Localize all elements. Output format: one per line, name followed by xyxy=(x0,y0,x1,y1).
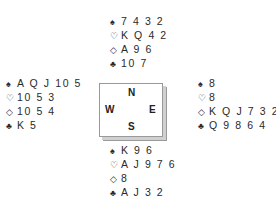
north-hearts: ♡K Q 4 2 xyxy=(110,28,168,42)
north-spades: ♠7 4 3 2 xyxy=(110,14,168,28)
heart-icon: ♡ xyxy=(198,91,209,105)
west-spades: ♠A Q J 10 5 xyxy=(6,76,82,90)
east-spades-cards: 8 xyxy=(209,77,216,89)
south-clubs-cards: A J 3 2 xyxy=(121,186,164,198)
west-hearts: ♡10 5 3 xyxy=(6,90,82,104)
diamond-icon: ◇ xyxy=(110,43,121,57)
east-clubs: ♣Q 9 8 6 4 xyxy=(198,118,276,132)
east-clubs-cards: Q 9 8 6 4 xyxy=(209,119,267,131)
spade-icon: ♠ xyxy=(110,15,121,29)
east-diamonds-cards: K Q J 7 3 2 xyxy=(209,105,276,117)
north-hand: ♠7 4 3 2 ♡K Q 4 2 ◇A 9 6 ♣10 7 xyxy=(110,14,168,70)
compass-east: E xyxy=(149,104,156,115)
south-diamonds-cards: 8 xyxy=(121,172,128,184)
south-hearts: ♡A J 9 7 6 xyxy=(110,157,176,171)
spade-icon: ♠ xyxy=(110,144,121,158)
club-icon: ♣ xyxy=(198,119,209,133)
club-icon: ♣ xyxy=(6,119,17,133)
heart-icon: ♡ xyxy=(6,91,17,105)
east-spades: ♠8 xyxy=(198,76,276,90)
diamond-icon: ◇ xyxy=(110,172,121,186)
east-diamonds: ◇K Q J 7 3 2 xyxy=(198,104,276,118)
north-diamonds: ◇A 9 6 xyxy=(110,42,168,56)
south-hearts-cards: A J 9 7 6 xyxy=(121,158,176,170)
south-spades: ♠K 9 6 xyxy=(110,143,176,157)
north-clubs: ♣10 7 xyxy=(110,56,168,70)
south-clubs: ♣A J 3 2 xyxy=(110,185,176,199)
south-diamonds: ◇8 xyxy=(110,171,176,185)
west-spades-cards: A Q J 10 5 xyxy=(17,77,82,89)
west-clubs: ♣K 5 xyxy=(6,118,82,132)
west-clubs-cards: K 5 xyxy=(17,119,38,131)
heart-icon: ♡ xyxy=(110,29,121,43)
spade-icon: ♠ xyxy=(6,77,17,91)
compass-north: N xyxy=(128,87,135,98)
heart-icon: ♡ xyxy=(110,158,121,172)
club-icon: ♣ xyxy=(110,186,121,200)
north-clubs-cards: 10 7 xyxy=(121,57,148,69)
club-icon: ♣ xyxy=(110,57,121,71)
spade-icon: ♠ xyxy=(198,77,209,91)
west-hand: ♠A Q J 10 5 ♡10 5 3 ◇10 5 4 ♣K 5 xyxy=(6,76,82,132)
south-hand: ♠K 9 6 ♡A J 9 7 6 ◇8 ♣A J 3 2 xyxy=(110,143,176,199)
south-spades-cards: K 9 6 xyxy=(121,144,154,156)
compass-west: W xyxy=(105,104,114,115)
east-hearts: ♡8 xyxy=(198,90,276,104)
diamond-icon: ◇ xyxy=(198,105,209,119)
north-diamonds-cards: A 9 6 xyxy=(121,43,153,55)
compass-south: S xyxy=(128,121,135,132)
compass-box: N W E S xyxy=(99,83,163,137)
east-hand: ♠8 ♡8 ◇K Q J 7 3 2 ♣Q 9 8 6 4 xyxy=(198,76,276,132)
diamond-icon: ◇ xyxy=(6,105,17,119)
west-diamonds-cards: 10 5 4 xyxy=(17,105,56,117)
west-diamonds: ◇10 5 4 xyxy=(6,104,82,118)
east-hearts-cards: 8 xyxy=(209,91,216,103)
north-hearts-cards: K Q 4 2 xyxy=(121,29,168,41)
north-spades-cards: 7 4 3 2 xyxy=(121,15,164,27)
west-hearts-cards: 10 5 3 xyxy=(17,91,56,103)
